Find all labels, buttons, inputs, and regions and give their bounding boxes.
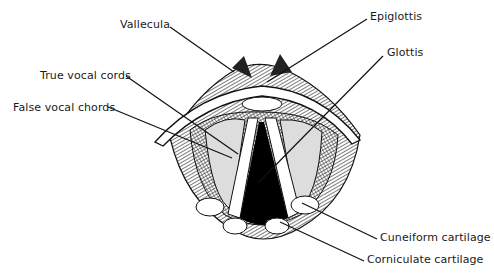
corniculate-right (265, 218, 289, 234)
epiglottic-tubercle (242, 97, 282, 111)
label-true-vocal-cords: True vocal cords (40, 69, 131, 82)
label-epiglottis: Epiglottis (370, 10, 422, 23)
corniculate-left (223, 218, 247, 234)
larynx-diagram: Vallecula Epiglottis Glottis True vocal … (0, 0, 494, 279)
label-cuneiform-cartilage: Cuneiform cartilage (380, 231, 491, 244)
label-glottis: Glottis (387, 46, 423, 59)
label-false-vocal-chords: False vocal chords (13, 101, 115, 114)
cuneiform-left (196, 198, 224, 216)
label-vallecula: Vallecula (120, 18, 170, 31)
label-corniculate-cartilage: Corniculate cartilage (367, 253, 484, 266)
